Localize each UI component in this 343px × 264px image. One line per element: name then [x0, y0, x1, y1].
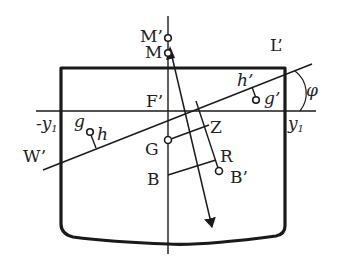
point-M-prime [165, 35, 172, 42]
label-G: G [145, 139, 159, 159]
label-neg-y1: -y1 [36, 113, 58, 134]
label-h: h [97, 124, 108, 144]
hull-outline [61, 68, 285, 244]
point-g-prime [253, 97, 260, 104]
point-M [165, 50, 172, 57]
point-g [87, 129, 94, 136]
label-phi: φ [306, 80, 318, 100]
label-W-prime: W’ [23, 146, 46, 166]
label-F-prime: F’ [146, 91, 163, 111]
label-M: M [145, 42, 162, 62]
label-L-prime: L’ [270, 35, 283, 55]
line-B-R [168, 160, 216, 175]
label-h-prime: h’ [237, 70, 253, 90]
label-R: R [220, 146, 234, 166]
label-Z: Z [210, 117, 222, 137]
tick-h [91, 135, 96, 148]
stability-diagram: M’ M L’ F’ φ h’ g’ -y1 y1 g h W’ Z G R B… [0, 0, 343, 264]
point-B-prime [216, 168, 223, 175]
point-G [165, 137, 172, 144]
label-B-prime: B’ [230, 167, 248, 187]
label-g: g [74, 111, 85, 131]
heel-angle-arc [295, 71, 306, 111]
label-y1: y1 [287, 113, 304, 134]
label-B: B [147, 169, 160, 189]
label-g-prime: g’ [264, 88, 280, 108]
